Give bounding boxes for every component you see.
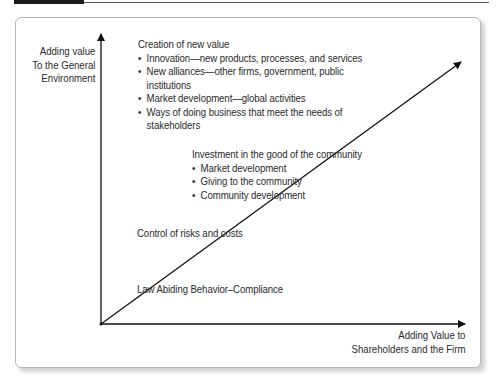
list-item: New alliances—other firms, government, p… — [138, 65, 368, 92]
y-axis-label: Adding value To the General Environment — [32, 45, 95, 86]
level-control-of-risks: Control of risks and costs — [137, 227, 243, 241]
level-title: Control of risks and costs — [137, 227, 243, 241]
level-law-abiding: Law Abiding Behavior–Compliance — [137, 283, 283, 297]
level-title: Investment in the good of the community — [192, 148, 362, 162]
x-axis-label: Adding Value to Shareholders and the Fir… — [351, 329, 465, 356]
list-item: Ways of doing business that meet the nee… — [138, 106, 368, 133]
level-community-investment: Investment in the good of the community … — [192, 148, 362, 202]
list-item: Innovation—new products, processes, and … — [138, 52, 368, 66]
list-item: Community development — [192, 189, 362, 203]
level-creation-of-new-value: Creation of new value Innovation—new pro… — [138, 38, 368, 133]
list-item: Market development — [192, 162, 362, 176]
list-item: Giving to the community — [192, 175, 362, 189]
level-title: Creation of new value — [138, 38, 368, 52]
level-title: Law Abiding Behavior–Compliance — [137, 283, 283, 297]
list-item: Market development—global activities — [138, 92, 368, 106]
